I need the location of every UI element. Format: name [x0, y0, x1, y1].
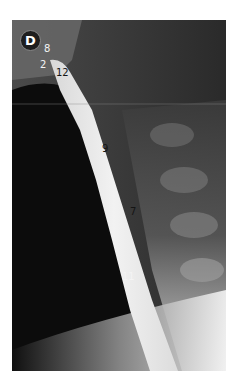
annotation-7: 7 — [130, 207, 136, 217]
annotation-11: 11 — [122, 272, 135, 282]
annotation-12: 12 — [56, 68, 69, 78]
annotation-2: 2 — [40, 60, 46, 70]
panel-label-badge: D — [20, 30, 41, 51]
annotation-9: 9 — [102, 144, 108, 154]
xray-image: D 8 2 12 9 7 11 — [12, 20, 226, 371]
annotation-8: 8 — [44, 44, 50, 54]
xray-graphic — [12, 20, 226, 371]
